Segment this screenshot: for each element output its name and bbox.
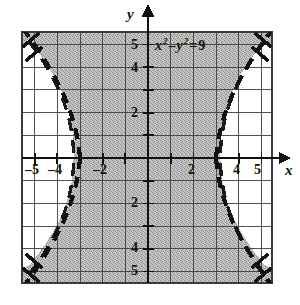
x-tick-label-4: 4 [233, 162, 240, 178]
y-axis-label: y [127, 6, 134, 23]
hyperbola-graph-figure: y x x2–y2=9 –5 –4 –2 2 4 5 5 4 2 2 4 5 G… [0, 0, 300, 305]
y-tick-label-neg5: 5 [131, 263, 138, 279]
x-tick-label-neg2: –2 [93, 162, 107, 178]
equation-equals: = [189, 38, 198, 53]
equation-y: y [177, 38, 184, 53]
y-axis-arrowhead [143, 5, 154, 16]
equation-label: x2–y2=9 [155, 36, 206, 54]
equation-minus: – [169, 38, 177, 53]
equation-nine: 9 [198, 38, 206, 53]
y-tick-label-4: 4 [131, 60, 138, 76]
graph-svg [0, 0, 300, 305]
y-tick-label-neg4: 4 [131, 240, 138, 256]
x-tick-label-neg5: –5 [25, 162, 39, 178]
y-tick-label-2: 2 [131, 105, 138, 121]
y-tick-label-neg2: 2 [131, 195, 138, 211]
x-tick-label-neg4: –4 [48, 162, 62, 178]
x-axis-label: x [285, 162, 293, 179]
x-tick-label-2: 2 [188, 162, 195, 178]
equation-x: x [155, 38, 163, 53]
x-tick-label-5: 5 [254, 162, 261, 178]
y-tick-label-5: 5 [131, 37, 138, 53]
